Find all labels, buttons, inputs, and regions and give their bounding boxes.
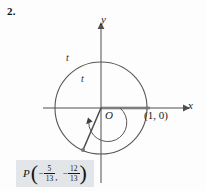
figure-page: 2. x y t t O (1, 0) P ( − 5 <box>0 0 206 191</box>
coordinate-comma: , <box>55 173 57 183</box>
y-axis-label: y <box>101 13 106 25</box>
arc-label-outer: t <box>66 52 69 63</box>
unit-point-label: (1, 0) <box>144 109 168 121</box>
terminal-ray <box>83 108 101 150</box>
x-denominator: 13 <box>44 173 56 182</box>
x-axis-label: x <box>188 99 193 111</box>
y-fraction: 12 13 <box>68 165 80 182</box>
y-sign: − <box>62 169 67 178</box>
point-p-marker <box>81 148 85 152</box>
x-sign: − <box>38 169 43 178</box>
y-denominator: 13 <box>68 173 80 182</box>
point-coordinates-expression: P ( − 5 13 , − 12 13 ) <box>23 164 87 182</box>
x-numerator: 5 <box>46 165 54 173</box>
y-numerator: 12 <box>68 165 80 173</box>
x-fraction: 5 13 <box>44 165 56 182</box>
open-paren: ( <box>31 164 38 182</box>
arc-label-inner: t <box>81 73 84 84</box>
point-coordinates-box: P ( − 5 13 , − 12 13 ) <box>16 160 94 187</box>
point-name: P <box>23 168 30 179</box>
angle-arc-arrowhead <box>86 117 92 124</box>
close-paren: ) <box>80 164 87 182</box>
origin-label: O <box>105 109 113 121</box>
